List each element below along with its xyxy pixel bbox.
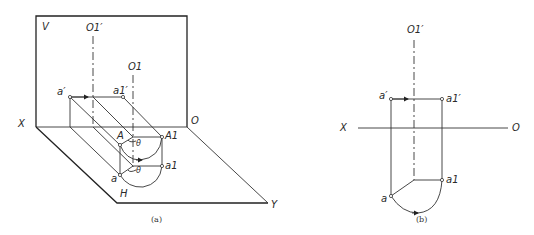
label-a-prime-a: a′ xyxy=(57,86,66,97)
h-plane-edge xyxy=(36,127,268,203)
caption-a: (a) xyxy=(151,215,162,224)
h-plane-right-edge xyxy=(187,127,268,203)
label-o1-a: O1 xyxy=(128,61,142,72)
label-h-plane: H xyxy=(120,188,128,199)
label-o1-prime-b: O1′ xyxy=(407,24,424,35)
label-a-prime-b: a′ xyxy=(379,90,388,101)
label-a1-prime-b: a1′ xyxy=(446,93,461,104)
label-A1: A1 xyxy=(164,130,178,141)
arc-A-A1 xyxy=(120,137,162,160)
label-x-axis-b: X xyxy=(339,122,348,133)
figure-a: V X O Y O1′ O1 a′ a1′ A A1 a a1 θ θ H (a… xyxy=(17,16,278,224)
figure-b: O1′ X O a′ a1′ a1 a (b) xyxy=(339,24,520,224)
point-a xyxy=(118,173,121,176)
recede-a1-prime-A1 xyxy=(123,97,162,137)
label-x-axis-a: X xyxy=(17,118,26,129)
arc-a-a1-b xyxy=(391,180,442,213)
label-A: A xyxy=(116,130,124,141)
v-plane xyxy=(36,16,187,127)
label-v-plane: V xyxy=(42,21,50,32)
point-A1 xyxy=(160,135,163,138)
point-a1-b xyxy=(440,178,443,181)
arc-a-a1 xyxy=(120,166,162,187)
label-origin-a: O xyxy=(191,115,199,126)
point-a-prime xyxy=(68,95,71,98)
point-a-prime-b xyxy=(389,97,392,100)
label-theta-bottom: θ xyxy=(136,166,141,175)
label-theta-top: θ xyxy=(136,139,141,148)
point-a1 xyxy=(160,164,163,167)
recede-center-top xyxy=(93,97,133,137)
point-A xyxy=(118,143,121,146)
recede-a-prime-A xyxy=(70,97,120,145)
label-a1-prime-a: a1′ xyxy=(113,85,128,96)
a-to-center xyxy=(120,166,133,175)
recede-x-a xyxy=(70,127,120,175)
label-origin-b: O xyxy=(512,122,520,133)
label-a1: a1 xyxy=(165,160,178,171)
label-a: a xyxy=(111,173,117,184)
radius-a-b xyxy=(391,180,414,196)
label-o1-prime-a: O1′ xyxy=(86,22,103,33)
label-y-axis: Y xyxy=(271,199,278,210)
caption-b: (b) xyxy=(416,215,427,224)
recede-center-bottom xyxy=(93,127,133,166)
label-a1-b: a1 xyxy=(446,174,459,185)
point-a-b xyxy=(389,194,392,197)
label-a-b: a xyxy=(381,193,387,204)
diagram-canvas: V X O Y O1′ O1 a′ a1′ A A1 a a1 θ θ H (a… xyxy=(0,0,534,235)
theta-arc-bottom xyxy=(128,170,136,172)
theta-arc-top xyxy=(128,140,136,142)
point-a1-prime-b xyxy=(440,97,443,100)
